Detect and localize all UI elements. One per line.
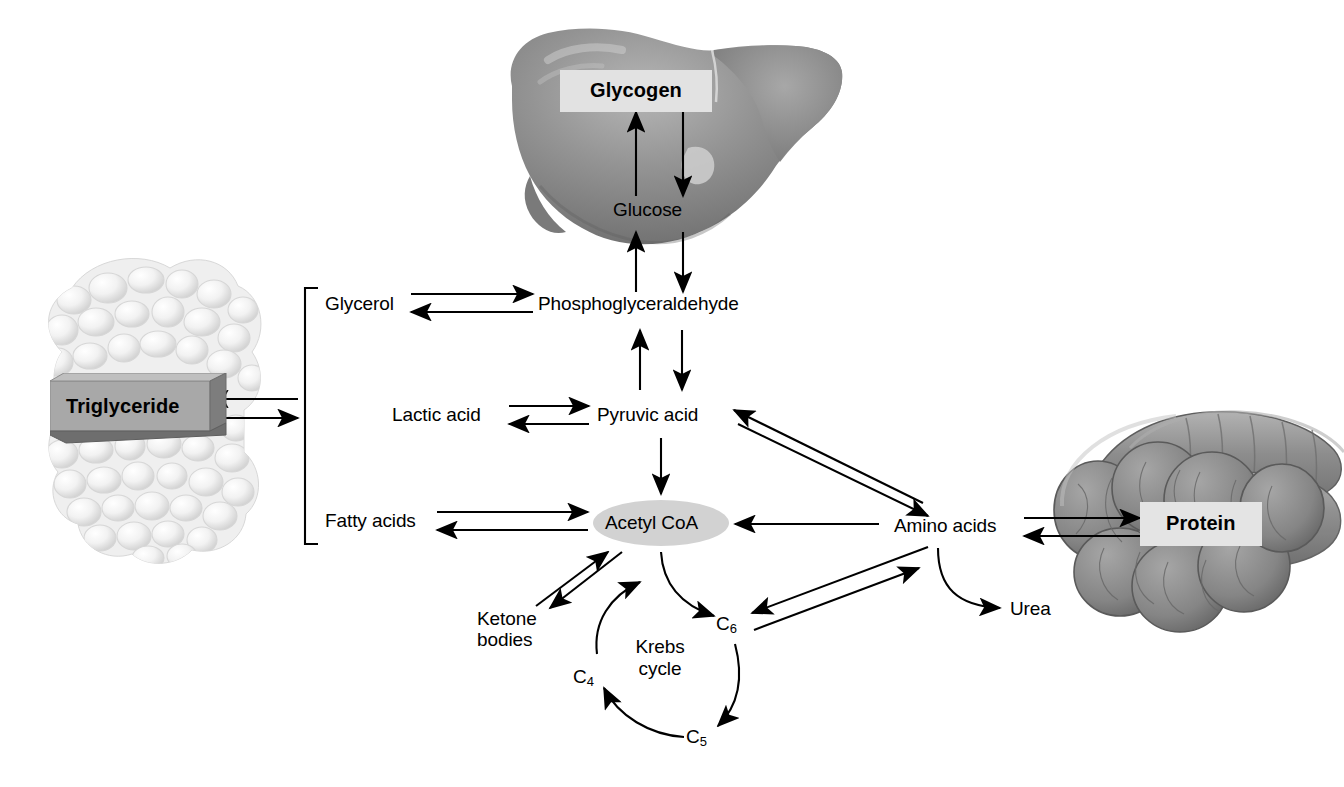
node-label-glucose: Glucose	[613, 199, 682, 220]
krebs-line-1: Krebs	[635, 636, 684, 657]
node-label-glycogen: Glycogen	[560, 70, 712, 112]
node-label-krebs-cycle: Krebs cycle	[612, 636, 708, 681]
ketone-line-1: Ketone	[477, 608, 537, 629]
node-label-protein: Protein	[1140, 502, 1262, 546]
krebs-line-2: cycle	[639, 658, 682, 679]
node-label-c5: C5	[686, 726, 707, 750]
c4-subscript: 4	[587, 674, 594, 689]
node-label-amino-acids: Amino acids	[894, 515, 996, 536]
node-label-pyruvic-acid: Pyruvic acid	[597, 404, 698, 425]
metabolic-pathway-diagram: Glycogen Glucose Phosphoglyceraldehyde G…	[0, 0, 1344, 787]
node-label-fatty-acids: Fatty acids	[325, 510, 416, 531]
node-label-urea: Urea	[1010, 598, 1051, 619]
node-label-glycerol: Glycerol	[325, 293, 394, 314]
ketone-line-2: bodies	[477, 629, 532, 650]
triglyceride-3d-box: Triglyceride	[50, 373, 242, 447]
c5-symbol: C	[686, 726, 700, 747]
node-label-c6: C6	[716, 613, 737, 637]
node-label-phosphoglyceraldehyde: Phosphoglyceraldehyde	[538, 293, 739, 314]
node-label-ketone-bodies: Ketone bodies	[477, 608, 537, 651]
c6-symbol: C	[716, 613, 730, 634]
node-label-lactic-acid: Lactic acid	[392, 404, 481, 425]
node-label-triglyceride: Triglyceride	[66, 395, 179, 417]
c5-subscript: 5	[700, 734, 707, 749]
c6-subscript: 6	[730, 621, 737, 636]
c4-symbol: C	[573, 666, 587, 687]
node-label-acetyl-coa: Acetyl CoA	[605, 512, 698, 533]
node-label-c4: C4	[573, 666, 594, 690]
